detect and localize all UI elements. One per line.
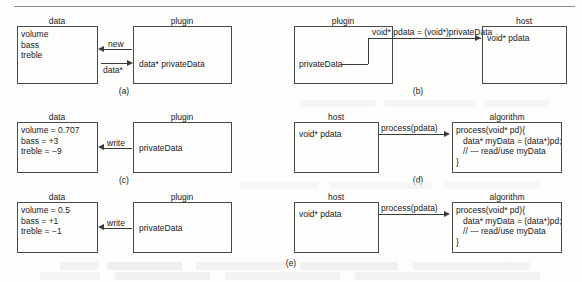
panel-a-new-edge-label: new bbox=[108, 39, 124, 49]
panel-e-algorithm-line-2: data* myData = (data*)pd; bbox=[456, 216, 562, 227]
panel-e-host-title: host bbox=[328, 192, 344, 202]
panel-e-data-line-2: bass = +1 bbox=[21, 216, 58, 227]
scan-bleed-line-3 bbox=[300, 100, 550, 107]
panel-a-label: (a) bbox=[119, 86, 129, 96]
panel-a-data-title: data bbox=[49, 16, 66, 26]
panel-b-elbow-vertical bbox=[368, 38, 369, 64]
panel-b-host-title: host bbox=[516, 16, 532, 26]
panel-e-host-line-1: void* pdata bbox=[299, 209, 342, 220]
panel-b-elbow-horizontal-lower bbox=[341, 64, 368, 65]
panel-e-algorithm-line-4: } bbox=[456, 237, 459, 248]
panel-a-dataptr-edge-arrowhead bbox=[127, 60, 133, 66]
panel-c-data-line-2: bass = +3 bbox=[21, 136, 58, 147]
panel-d-algorithm-line-4: } bbox=[456, 157, 459, 168]
panel-a-plugin-title: plugin bbox=[171, 16, 194, 26]
panel-c-data-line-3: treble = −9 bbox=[21, 146, 62, 157]
panel-a-data-line-2: bass bbox=[21, 40, 39, 51]
panel-e-process-edge-arrowhead bbox=[444, 211, 450, 217]
panel-e-plugin-title: plugin bbox=[171, 192, 194, 202]
panel-e-data-line-1: volume = 0.5 bbox=[21, 205, 70, 216]
panel-a-new-edge-line bbox=[104, 49, 132, 50]
panel-b-plugin-line-1: privateData bbox=[299, 59, 342, 70]
panel-c-data-line-1: volume = 0.707 bbox=[21, 125, 79, 136]
scan-bleed-line-2 bbox=[40, 272, 540, 280]
panel-a-plugin-box bbox=[133, 26, 232, 84]
panel-c-label: (c) bbox=[119, 175, 129, 185]
panel-c-data-title: data bbox=[49, 112, 66, 122]
panel-c-plugin-title: plugin bbox=[171, 112, 194, 122]
scan-bleed-line-1 bbox=[60, 262, 530, 270]
panel-c-plugin-line-1: privateData bbox=[139, 143, 182, 154]
panel-e-write-edge-arrowhead bbox=[98, 224, 104, 230]
figure-canvas: data volume bass treble plugin data* pri… bbox=[0, 0, 582, 282]
panel-d-algorithm-line-3: // --- read/use myData bbox=[456, 146, 546, 157]
panel-e-algorithm-line-1: process(void* pd){ bbox=[456, 205, 525, 216]
panel-d-process-edge-arrowhead bbox=[444, 131, 450, 137]
horizontal-rule bbox=[14, 6, 575, 7]
panel-b-label: (b) bbox=[413, 86, 423, 96]
panel-e-algorithm-line-3: // --- read/use myData bbox=[456, 226, 546, 237]
panel-a-data-line-3: treble bbox=[21, 50, 42, 61]
panel-a-dataptr-edge-label: data* bbox=[103, 65, 123, 75]
panel-d-host-title: host bbox=[328, 112, 344, 122]
panel-e-process-edge-label: process(pdata) bbox=[381, 203, 438, 213]
panel-d-host-line-1: void* pdata bbox=[299, 129, 342, 140]
panel-b-cast-edge-label: void* pdata = (void*)privateData bbox=[372, 27, 492, 37]
scan-bleed-line-4 bbox=[240, 182, 540, 189]
panel-a-plugin-line-1: data* privateData bbox=[139, 59, 205, 70]
panel-b-cast-edge-line bbox=[368, 38, 481, 39]
panel-a-dataptr-edge-line bbox=[101, 63, 127, 64]
panel-d-algorithm-title: algorithm bbox=[490, 112, 525, 122]
panel-a-data-line-1: volume bbox=[21, 29, 48, 40]
panel-d-algorithm-line-1: process(void* pd){ bbox=[456, 125, 525, 136]
panel-e-data-line-3: treble = −1 bbox=[21, 226, 62, 237]
panel-e-plugin-line-1: privateData bbox=[139, 223, 182, 234]
panel-b-host-line-1: void* pdata bbox=[487, 33, 530, 44]
panel-b-plugin-title: plugin bbox=[332, 16, 355, 26]
panel-e-algorithm-title: algorithm bbox=[490, 192, 525, 202]
panel-e-write-edge-label: write bbox=[107, 218, 125, 228]
panel-a-new-edge-arrowhead bbox=[98, 46, 104, 52]
panel-c-write-edge-label: write bbox=[107, 138, 125, 148]
panel-d-process-edge-label: process(pdata) bbox=[381, 123, 438, 133]
panel-e-data-title: data bbox=[49, 192, 66, 202]
panel-e-process-edge-line bbox=[379, 214, 444, 215]
panel-c-write-edge-arrowhead bbox=[98, 144, 104, 150]
panel-d-process-edge-line bbox=[379, 134, 444, 135]
panel-d-algorithm-line-2: data* myData = (data*)pd; bbox=[456, 136, 562, 147]
